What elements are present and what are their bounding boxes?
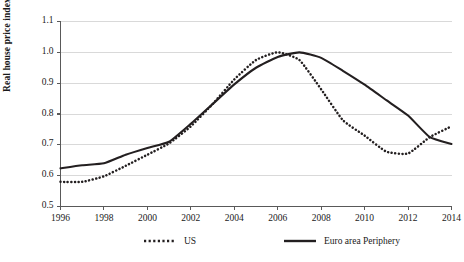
- chart-legend: US Euro area Periphery: [0, 232, 464, 252]
- y-tick-label: 0.7: [28, 138, 54, 148]
- y-tick-label: 1.0: [28, 46, 54, 56]
- series-line-us: [61, 52, 452, 182]
- tick-marks: [57, 22, 452, 211]
- x-tick-label: 2010: [345, 213, 385, 223]
- series-line-euro-area-periphery: [61, 52, 452, 168]
- x-tick-label: 1996: [41, 213, 81, 223]
- x-tick-label: 2002: [171, 213, 211, 223]
- chart-figure: Real house price index 0.50.60.70.80.91.…: [0, 0, 464, 262]
- legend-item-us: US: [143, 232, 196, 250]
- data-series: [61, 52, 452, 182]
- y-tick-label: 0.6: [28, 169, 54, 179]
- x-tick-label: 2014: [432, 213, 464, 223]
- legend-swatch-solid-icon: [283, 236, 317, 246]
- legend-swatch-dotted-icon: [143, 236, 177, 246]
- y-tick-label: 0.5: [28, 200, 54, 210]
- y-tick-label: 0.8: [28, 108, 54, 118]
- legend-label-us: US: [184, 236, 196, 246]
- legend-label-euro-area-periphery: Euro area Periphery: [324, 236, 400, 246]
- x-tick-label: 2000: [127, 213, 167, 223]
- gridlines: [61, 22, 452, 207]
- y-tick-label: 1.1: [28, 15, 54, 25]
- plot-area: [0, 0, 464, 262]
- x-tick-label: 2012: [388, 213, 428, 223]
- x-tick-label: 2004: [214, 213, 254, 223]
- y-tick-label: 0.9: [28, 77, 54, 87]
- x-tick-label: 2008: [301, 213, 341, 223]
- x-tick-label: 1998: [84, 213, 124, 223]
- x-tick-label: 2006: [258, 213, 298, 223]
- legend-item-euro-area-periphery: Euro area Periphery: [283, 232, 400, 250]
